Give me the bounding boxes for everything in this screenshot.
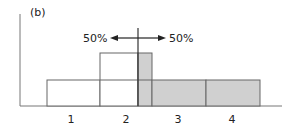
annotation-left: 50% [83,32,107,45]
bar-4 [206,80,260,106]
left-arrowhead-icon [110,35,118,41]
x-tick-3: 3 [175,113,182,126]
bar-3 [152,80,206,106]
annotation-right: 50% [169,32,193,45]
x-tick-4: 4 [229,113,236,126]
right-arrowhead-icon [158,35,166,41]
histogram-chart: (b) 50% 50% 1 2 3 4 [0,0,307,136]
x-tick-2: 2 [123,113,130,126]
panel-label: (b) [30,6,46,19]
x-tick-1: 1 [68,113,75,126]
bar-1 [47,80,100,106]
